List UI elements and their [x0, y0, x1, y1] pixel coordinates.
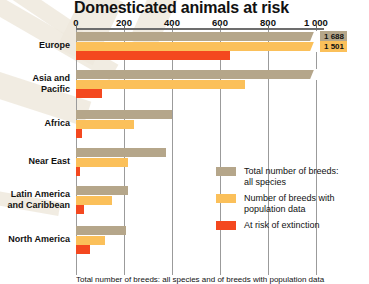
legend-swatch-risk	[216, 221, 236, 230]
chart-footnote: Total number of breeds: all species and …	[76, 275, 369, 284]
bar-total	[76, 110, 172, 119]
x-axis-tick	[76, 24, 77, 29]
category-label-north-america: North America	[2, 234, 70, 245]
x-axis-tick	[172, 24, 173, 29]
category-label-latin-america-and-caribbean: Latin America and Caribbean	[2, 189, 70, 210]
bar-group	[76, 70, 369, 99]
bar-risk	[76, 245, 90, 254]
bar-pop	[76, 80, 245, 89]
legend-label-continued: all species	[244, 177, 369, 188]
bar-pop	[76, 196, 112, 205]
x-axis-line	[76, 28, 324, 30]
bar-total	[76, 70, 316, 79]
x-axis-tick	[220, 24, 221, 29]
x-axis-tick	[124, 24, 125, 29]
bar-risk	[76, 51, 230, 60]
chart-legend: Total number of breeds:all speciesNumber…	[216, 166, 369, 244]
bar-pop	[76, 42, 316, 51]
bar-total	[76, 186, 128, 195]
bar-pop	[76, 236, 105, 245]
legend-item[interactable]: At risk of extinction	[216, 220, 369, 238]
category-label-europe: Europe	[2, 40, 70, 51]
bar-pop	[76, 158, 128, 167]
legend-label-continued: population data	[244, 204, 369, 215]
bar-group	[76, 110, 369, 139]
x-axis-tick	[268, 24, 269, 29]
legend-swatch-pop	[216, 194, 236, 203]
bar-total	[76, 32, 316, 41]
legend-item[interactable]: Total number of breeds:all species	[216, 166, 369, 187]
bar-risk	[76, 205, 84, 214]
bar-risk	[76, 89, 102, 98]
legend-label: At risk of extinction	[244, 220, 369, 231]
bar-total	[76, 148, 166, 157]
legend-label: Number of breeds with	[244, 193, 369, 204]
bar-risk	[76, 167, 80, 176]
chart-title: Domesticated animals at risk	[74, 0, 289, 17]
bar-pop	[76, 120, 134, 129]
category-label-asia-and-pacific: Asia and Pacific	[2, 73, 70, 94]
category-label-africa: Africa	[2, 118, 70, 129]
legend-item[interactable]: Number of breeds withpopulation data	[216, 193, 369, 214]
x-axis-tick	[316, 24, 317, 29]
bar-risk	[76, 129, 82, 138]
category-label-near-east: Near East	[2, 156, 70, 167]
legend-label: Total number of breeds:	[244, 166, 369, 177]
y-axis-category-labels: EuropeAsia and PacificAfricaNear EastLat…	[0, 30, 70, 275]
legend-swatch-total	[216, 167, 236, 176]
bar-value-label: 1 501	[320, 41, 347, 52]
bar-group: 1 6881 501	[76, 32, 369, 61]
bar-total	[76, 226, 126, 235]
